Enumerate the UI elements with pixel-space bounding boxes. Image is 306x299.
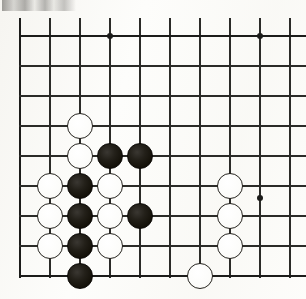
white-stone[interactable]: [67, 113, 93, 139]
black-stone[interactable]: [67, 203, 93, 229]
star-point: [257, 195, 264, 202]
board-edge-line-left: [19, 18, 22, 278]
black-stone[interactable]: [127, 143, 153, 169]
white-stone[interactable]: [37, 173, 63, 199]
go-diagram-screenshot: [0, 0, 306, 299]
star-point: [257, 33, 264, 40]
white-stone[interactable]: [217, 233, 243, 259]
black-stone[interactable]: [97, 143, 123, 169]
white-stone[interactable]: [187, 263, 213, 289]
grid-line-vertical: [199, 18, 200, 278]
white-stone[interactable]: [217, 173, 243, 199]
grid-line-vertical: [169, 18, 170, 278]
white-stone[interactable]: [97, 203, 123, 229]
grid-line-horizontal: [19, 155, 306, 156]
grid-line-vertical: [259, 18, 260, 278]
black-stone[interactable]: [67, 233, 93, 259]
white-stone[interactable]: [97, 173, 123, 199]
star-point: [107, 33, 114, 40]
white-stone[interactable]: [217, 203, 243, 229]
white-stone[interactable]: [97, 233, 123, 259]
white-stone[interactable]: [37, 233, 63, 259]
grid-line-vertical: [289, 18, 290, 278]
grid-line-horizontal: [19, 65, 306, 66]
grid-line-horizontal: [19, 95, 306, 96]
go-board[interactable]: [0, 0, 306, 299]
grid-line-horizontal: [19, 125, 306, 126]
black-stone[interactable]: [127, 203, 153, 229]
board-edge-line-bottom: [19, 275, 306, 278]
white-stone[interactable]: [67, 143, 93, 169]
black-stone[interactable]: [67, 173, 93, 199]
black-stone[interactable]: [67, 263, 93, 289]
white-stone[interactable]: [37, 203, 63, 229]
